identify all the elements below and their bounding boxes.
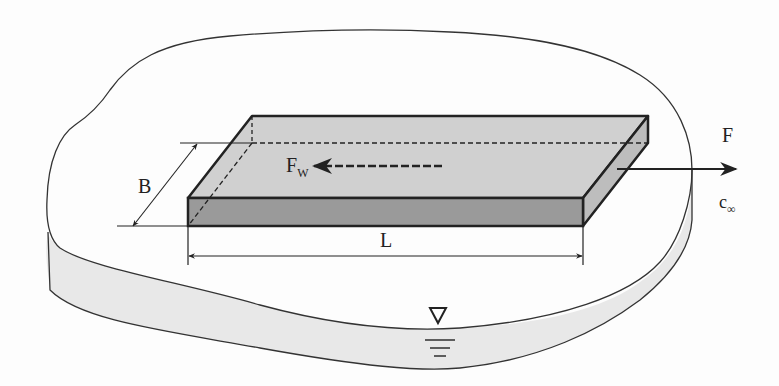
diagram-canvas bbox=[0, 0, 779, 386]
label-c-sub: ∞ bbox=[727, 202, 736, 216]
label-l: L bbox=[380, 230, 392, 250]
label-fw-sub: W bbox=[297, 166, 308, 180]
label-b: B bbox=[138, 176, 151, 196]
label-f: F bbox=[722, 125, 733, 145]
plate-top-face bbox=[188, 116, 648, 198]
label-c-inf: c∞ bbox=[719, 193, 736, 211]
label-fw-main: F bbox=[286, 154, 297, 176]
plate-front-face bbox=[188, 198, 583, 226]
label-fw: FW bbox=[286, 155, 308, 175]
label-c-main: c bbox=[719, 192, 727, 212]
